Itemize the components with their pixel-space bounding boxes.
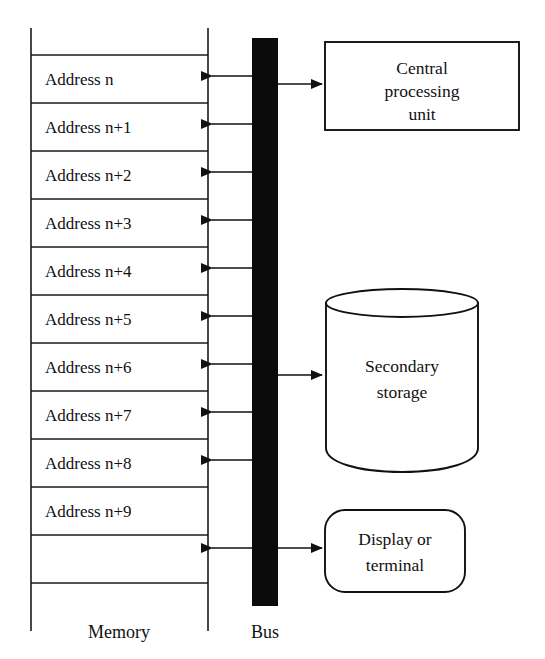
memory-cell-label: Address n+9 (45, 502, 132, 521)
memory-column: Address n Address n+1 Address n+2 Addres… (31, 28, 208, 631)
display-label-line-1: Display or (358, 529, 432, 549)
cpu-label-line-2: processing (385, 81, 460, 101)
memory-cell-label: Address n+2 (45, 166, 132, 185)
storage-label-line-1: Secondary (365, 356, 439, 376)
memory-cell-label: Address n (45, 70, 114, 89)
memory-cell-label: Address n+6 (45, 358, 132, 377)
display-or-terminal-node[interactable]: Display or terminal (325, 510, 465, 592)
memory-caption: Memory (88, 622, 150, 642)
memory-cell-label: Address n+3 (45, 214, 132, 233)
bus-bar (252, 38, 278, 606)
cylinder-top (326, 289, 478, 317)
central-processing-unit-node[interactable]: Central processing unit (325, 42, 519, 130)
bus-to-device-arrows (278, 84, 322, 548)
display-box[interactable] (325, 510, 465, 592)
memory-cell-label: Address n+8 (45, 454, 132, 473)
bus-caption: Bus (251, 622, 279, 642)
storage-label-line-2: storage (377, 382, 428, 402)
block-diagram: Address n Address n+1 Address n+2 Addres… (0, 0, 545, 659)
secondary-storage-node[interactable]: Secondary storage (326, 289, 478, 472)
bus-to-memory-arrows (212, 76, 252, 548)
display-label-line-2: terminal (366, 555, 424, 575)
memory-cell-label: Address n+7 (45, 406, 132, 425)
memory-cell-label: Address n+5 (45, 310, 132, 329)
memory-cell-label: Address n+1 (45, 118, 132, 137)
cpu-label-line-1: Central (396, 58, 448, 78)
memory-cell-label: Address n+4 (45, 262, 132, 281)
cpu-label-line-3: unit (408, 104, 435, 124)
diagram-canvas: Address n Address n+1 Address n+2 Addres… (0, 0, 545, 659)
